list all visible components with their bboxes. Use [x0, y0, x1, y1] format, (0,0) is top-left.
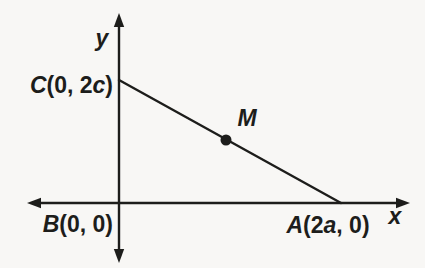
- x-axis-arrow-left-icon: [27, 198, 41, 208]
- y-axis-label: y: [95, 25, 110, 51]
- label-point-B: B(0, 0): [43, 211, 113, 237]
- x-axis-label: x: [387, 203, 403, 229]
- y-axis: [114, 13, 124, 263]
- y-axis-arrow-up-icon: [114, 13, 124, 27]
- y-axis-arrow-down-icon: [114, 249, 124, 263]
- label-point-A: A(2a, 0): [285, 212, 369, 238]
- label-point-C: C(0, 2c): [30, 72, 113, 98]
- label-point-M: M: [237, 105, 257, 131]
- midpoint-dot: [221, 135, 232, 146]
- coordinate-plane: y x C(0, 2c) B(0, 0) A(2a, 0) M: [0, 0, 425, 268]
- x-axis: [27, 198, 410, 208]
